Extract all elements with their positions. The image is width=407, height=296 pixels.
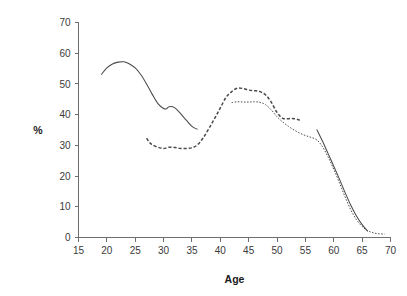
y-tick-label: 50: [59, 79, 71, 90]
x-tick-label: 35: [186, 245, 198, 256]
x-tick-label: 30: [158, 245, 170, 256]
x-tick-label: 55: [300, 245, 312, 256]
y-tick-label: 0: [65, 232, 71, 243]
chart-container: 010203040506070 152025303540455055606570…: [0, 0, 407, 296]
x-tick-label: 40: [215, 245, 227, 256]
x-tick-label: 20: [101, 245, 113, 256]
y-tick-label: 20: [59, 171, 71, 182]
x-tick-label: 60: [328, 245, 340, 256]
y-tick-label: 70: [59, 17, 71, 28]
y-tick-label: 60: [59, 48, 71, 59]
x-tick-label: 15: [73, 245, 85, 256]
y-tick-label: 40: [59, 109, 71, 120]
x-axis-title: Age: [225, 273, 245, 285]
x-tick-label: 25: [130, 245, 142, 256]
y-tick-label: 30: [59, 140, 71, 151]
series-dashed-line: [147, 88, 300, 149]
x-tick-label: 70: [385, 245, 397, 256]
series-dotted-line: [232, 102, 385, 234]
x-tick-label: 45: [243, 245, 255, 256]
series-solid-line: [101, 62, 197, 130]
y-axis-ticks: 010203040506070: [59, 17, 78, 243]
data-series-group: [101, 62, 385, 234]
x-tick-label: 50: [271, 245, 283, 256]
y-axis-title: %: [33, 124, 43, 136]
line-chart: 010203040506070 152025303540455055606570…: [0, 0, 407, 296]
y-tick-label: 10: [59, 201, 71, 212]
series-solid-line: [317, 129, 368, 231]
x-tick-label: 65: [357, 245, 369, 256]
x-axis-ticks: 152025303540455055606570: [73, 238, 397, 256]
